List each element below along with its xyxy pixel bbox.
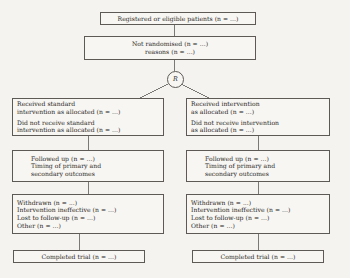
node-text: Did not receive standard [17,119,159,127]
node-completed-trial-intervention: Completed trial (n = ...) [192,250,324,263]
edge-randomisation-to-allocation-right [181,84,209,98]
node-text: Received standard [17,100,159,108]
node-text: as allocated (n = ...) [191,108,325,116]
node-text: Withdrawn (n = ...) [17,199,159,207]
node-not-randomised: Not randomised (n = ...) reasons (n = ..… [84,36,256,60]
node-text: Registered or eligible patients (n = ...… [118,15,239,23]
node-withdrawal-standard-intervention: Withdrawn (n = ...) Intervention ineffec… [12,194,164,234]
node-allocation-standard-intervention: Received standard intervention as alloca… [12,98,164,136]
randomisation-label: R [173,76,178,82]
node-text: Did not receive intervention [191,119,325,127]
node-text: Intervention ineffective (n = ...) [17,206,159,214]
node-text: Lost to follow-up (n = ...) [191,214,325,222]
node-text: Not randomised (n = ...) [132,40,208,48]
randomisation-node: R [167,71,184,88]
node-text: Followed up (n = ...) [191,155,325,163]
node-followup-intervention: Followed up (n = ...) Timing of primary … [186,150,330,182]
node-text: intervention as allocated (n = ...) [17,108,159,116]
node-text: Completed trial (n = ...) [221,253,296,261]
node-text: Intervention ineffective (n = ...) [191,206,325,214]
node-text: Other (n = ...) [191,222,325,230]
node-text: Received intervention [191,100,325,108]
node-text: reasons (n = ...) [145,48,195,56]
node-text: Timing of primary and [191,162,325,170]
allocation-received-group: Received intervention as allocated (n = … [191,100,325,115]
node-text: Withdrawn (n = ...) [191,199,325,207]
node-text: Lost to follow-up (n = ...) [17,214,159,222]
node-text: secondary outcomes [191,170,325,178]
node-registered-patients: Registered or eligible patients (n = ...… [100,12,256,25]
allocation-not-received-group: Did not receive intervention as allocate… [191,119,325,134]
edge-randomisation-to-allocation-left [140,84,168,98]
trial-flow-diagram: Registered or eligible patients (n = ...… [0,0,350,278]
node-followup-standard-intervention: Followed up (n = ...) Timing of primary … [12,150,164,182]
node-completed-trial-standard: Completed trial (n = ...) [13,250,145,263]
allocation-received-group: Received standard intervention as alloca… [17,100,159,115]
node-allocation-intervention: Received intervention as allocated (n = … [186,98,330,136]
node-text: Followed up (n = ...) [17,155,159,163]
node-text: as allocated (n = ...) [191,126,325,134]
node-text: Other (n = ...) [17,222,159,230]
node-text: Completed trial (n = ...) [42,253,117,261]
node-text: Timing of primary and [17,162,159,170]
node-text: intervention as allocated (n = ...) [17,126,159,134]
node-text: secondary outcomes [17,170,159,178]
node-withdrawal-intervention: Withdrawn (n = ...) Intervention ineffec… [186,194,330,234]
allocation-not-received-group: Did not receive standard intervention as… [17,119,159,134]
